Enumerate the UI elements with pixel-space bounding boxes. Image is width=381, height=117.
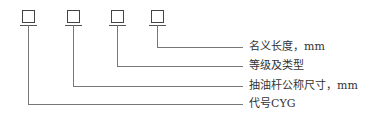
leader-3-horizontal: [117, 66, 243, 67]
label-grade-type: 等级及类型: [249, 59, 304, 73]
leader-4-horizontal: [157, 47, 243, 48]
label-rod-nominal-size: 抽油杆公称尺寸，mm: [249, 79, 358, 93]
label-code-cyg: 代号CYG: [249, 97, 295, 111]
leader-2-vertical: [73, 25, 74, 86]
leader-1-vertical: [28, 25, 29, 104]
leader-1-horizontal: [28, 104, 243, 105]
code-box-1: [22, 10, 35, 23]
leader-3-vertical: [117, 25, 118, 66]
code-box-4: [151, 10, 164, 23]
leader-2-horizontal: [73, 86, 243, 87]
code-box-3: [111, 10, 124, 23]
leader-4-vertical: [157, 25, 158, 47]
code-box-2: [67, 10, 80, 23]
label-nominal-length: 名义长度，mm: [249, 40, 325, 54]
